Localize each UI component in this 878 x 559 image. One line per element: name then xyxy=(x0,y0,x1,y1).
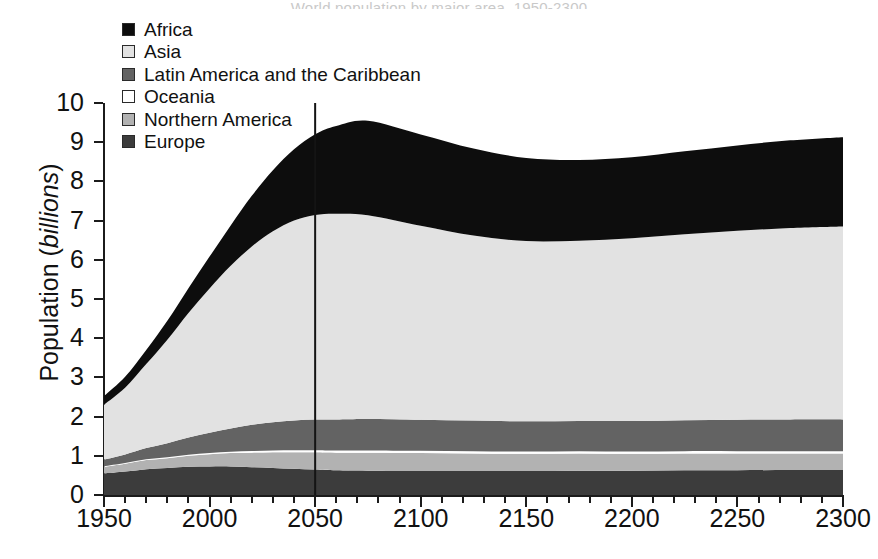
x-axis-line xyxy=(103,495,843,497)
y-tick-label: 1 xyxy=(42,443,84,468)
y-tick-mark xyxy=(94,102,103,104)
x-tick-minor xyxy=(504,495,506,503)
legend-swatch-northern-america xyxy=(122,113,135,126)
clipped-title: World population by major area, 1950-230… xyxy=(0,0,878,9)
y-tick-mark xyxy=(94,259,103,261)
y-tick-label: 8 xyxy=(42,168,84,193)
x-tick-label: 2300 xyxy=(798,506,878,531)
y-tick-label: 10 xyxy=(42,90,84,115)
y-tick-label: 4 xyxy=(42,325,84,350)
legend-label: Latin America and the Caribbean xyxy=(144,65,421,84)
y-tick-label: 7 xyxy=(42,208,84,233)
x-tick-minor xyxy=(124,495,126,503)
y-tick-label: 5 xyxy=(42,286,84,311)
x-tick-label: 2100 xyxy=(376,506,466,531)
legend-swatch-oceania xyxy=(122,90,135,103)
x-tick-minor xyxy=(251,495,253,503)
x-tick-label: 1950 xyxy=(59,506,149,531)
x-tick-label: 2250 xyxy=(692,506,782,531)
y-tick-label: 2 xyxy=(42,404,84,429)
y-tick-label: 6 xyxy=(42,247,84,272)
legend-item-asia[interactable]: Asia xyxy=(122,41,421,64)
chart-page: World population by major area, 1950-230… xyxy=(0,0,878,559)
x-tick-minor xyxy=(462,495,464,503)
x-tick-minor xyxy=(356,495,358,503)
x-tick-minor xyxy=(715,495,717,503)
x-tick-minor xyxy=(230,495,232,503)
x-tick-label: 2150 xyxy=(481,506,571,531)
x-tick-minor xyxy=(272,495,274,503)
x-tick-minor xyxy=(821,495,823,503)
y-tick-mark xyxy=(94,455,103,457)
y-tick-mark xyxy=(94,141,103,143)
x-tick-minor xyxy=(758,495,760,503)
x-tick-minor xyxy=(166,495,168,503)
y-tick-mark xyxy=(94,376,103,378)
x-tick-minor xyxy=(568,495,570,503)
y-tick-label: 9 xyxy=(42,129,84,154)
y-tick-label: 3 xyxy=(42,364,84,389)
y-tick-mark xyxy=(94,494,103,496)
x-tick-minor xyxy=(483,495,485,503)
legend-item-europe[interactable]: Europe xyxy=(122,131,421,154)
x-tick-minor xyxy=(335,495,337,503)
y-tick-mark xyxy=(94,220,103,222)
legend-item-africa[interactable]: Africa xyxy=(122,18,421,41)
x-tick-minor xyxy=(652,495,654,503)
legend-swatch-europe xyxy=(122,135,135,148)
y-tick-mark xyxy=(94,337,103,339)
legend-label: Northern America xyxy=(144,110,292,129)
legend-item-northern-america[interactable]: Northern America xyxy=(122,108,421,131)
x-tick-minor xyxy=(589,495,591,503)
x-tick-minor xyxy=(293,495,295,503)
x-tick-minor xyxy=(546,495,548,503)
x-tick-minor xyxy=(441,495,443,503)
legend-label: Asia xyxy=(144,42,181,61)
x-tick-label: 2200 xyxy=(587,506,677,531)
x-tick-minor xyxy=(187,495,189,503)
y-tick-mark xyxy=(94,180,103,182)
legend-label: Oceania xyxy=(144,87,215,106)
legend-label: Europe xyxy=(144,132,205,151)
legend-label: Africa xyxy=(144,20,193,39)
y-tick-mark xyxy=(94,298,103,300)
legend-swatch-asia xyxy=(122,45,135,58)
x-tick-minor xyxy=(779,495,781,503)
x-tick-minor xyxy=(377,495,379,503)
stacked-area-plot xyxy=(104,103,843,495)
legend-item-latin-america-and-the-caribbean[interactable]: Latin America and the Caribbean xyxy=(122,63,421,86)
x-tick-minor xyxy=(673,495,675,503)
x-tick-minor xyxy=(145,495,147,503)
x-tick-label: 2000 xyxy=(165,506,255,531)
legend-item-oceania[interactable]: Oceania xyxy=(122,86,421,109)
y-tick-mark xyxy=(94,416,103,418)
chart-legend: AfricaAsiaLatin America and the Caribbea… xyxy=(122,18,421,153)
x-tick-minor xyxy=(694,495,696,503)
x-tick-minor xyxy=(610,495,612,503)
legend-swatch-latin-america xyxy=(122,68,135,81)
x-tick-minor xyxy=(399,495,401,503)
x-tick-minor xyxy=(800,495,802,503)
legend-swatch-africa xyxy=(122,23,135,36)
x-tick-label: 2050 xyxy=(270,506,360,531)
